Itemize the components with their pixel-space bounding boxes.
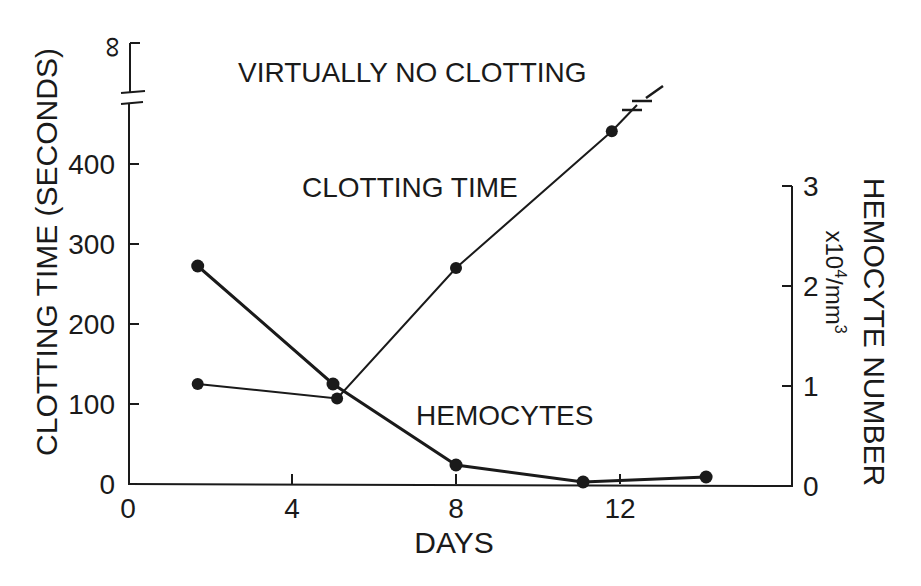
y-tick-label: 300 — [68, 229, 115, 260]
y2-tick-label: 2 — [803, 271, 819, 302]
hemocyte-point — [577, 476, 590, 489]
y2-axis-title: HEMOCYTE NUMBER — [858, 178, 891, 486]
series-hemocytes — [191, 260, 712, 489]
annotation-no-clotting: VIRTUALLY NO CLOTTING — [238, 57, 587, 88]
y-axis-title: CLOTTING TIME (SECONDS) — [30, 48, 63, 456]
clotting-time-point — [450, 262, 462, 274]
y2-tick-label: 1 — [803, 371, 819, 402]
series-label-clotting-time: CLOTTING TIME — [302, 172, 518, 203]
left-y-axis: ∞ 0100200300400 CLOTTING TIME (SECONDS) — [30, 36, 145, 500]
y-tick-label: 400 — [68, 149, 115, 180]
right-y-axis: 0123 HEMOCYTE NUMBER x104/mm3 — [782, 171, 891, 502]
x-axis: 04812 DAYS — [120, 474, 793, 559]
y2-axis-units: x104/mm3 — [821, 230, 849, 333]
y2-tick-label: 0 — [803, 471, 819, 502]
x-tick-label: 4 — [284, 493, 300, 524]
clotting-time-point — [606, 125, 618, 137]
hemocyte-point — [700, 471, 713, 484]
hemocyte-point — [191, 260, 204, 273]
hemocyte-point — [327, 378, 340, 391]
hemocyte-point — [450, 459, 463, 472]
series-clotting-time — [192, 86, 663, 404]
x-axis-title: DAYS — [414, 526, 493, 559]
clotting-time-point — [192, 378, 204, 390]
series-label-hemocytes: HEMOCYTES — [416, 400, 593, 431]
y-tick-label: 200 — [68, 309, 115, 340]
x-tick-label: 12 — [604, 493, 635, 524]
clotting-hemocyte-chart: ∞ 0100200300400 CLOTTING TIME (SECONDS) … — [0, 0, 921, 586]
y-tick-label: 100 — [68, 389, 115, 420]
infinity-tick-label: ∞ — [94, 36, 127, 57]
x-tick-label: 0 — [120, 493, 136, 524]
x-tick-label: 8 — [448, 493, 464, 524]
y2-tick-label: 3 — [803, 171, 819, 202]
clotting-time-point — [331, 392, 343, 404]
y-tick-label: 0 — [99, 469, 115, 500]
